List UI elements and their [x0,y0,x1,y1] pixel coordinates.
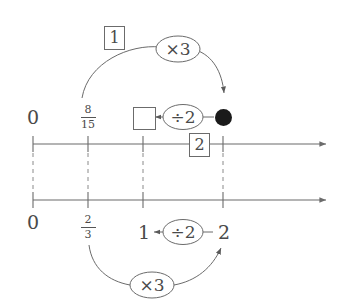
step-marker-1: 1 [104,26,125,50]
step-marker-2: 2 [189,133,210,157]
top-multiply-label: ×3 [156,41,200,58]
top-label-fraction: 8 15 [73,104,103,131]
bottom-fraction-numerator: 2 [73,214,103,227]
bottom-label-zero: 0 [25,213,41,232]
top-fraction-numerator: 8 [73,104,103,117]
bottom-label-two: 2 [216,223,232,242]
top-label-zero: 0 [25,108,41,127]
top-result-dot [215,109,232,126]
dashed-connectors [33,153,223,192]
bottom-label-one: 1 [136,223,152,242]
bottom-label-fraction: 2 3 [73,214,103,241]
bottom-fraction-denominator: 3 [73,228,103,241]
bottom-multiply-label: ×3 [130,277,174,294]
top-number-line-axis [33,136,326,152]
top-fraction-denominator: 15 [73,118,103,131]
bottom-number-line-axis [33,192,326,208]
double-number-line-diagram: dot, labelled x3 --> 2, labelled x3 --> … [0,0,340,308]
bottom-divide-label: ÷2 [163,224,203,241]
top-divide-label: ÷2 [163,109,203,126]
top-unknown-value-box [133,107,156,130]
